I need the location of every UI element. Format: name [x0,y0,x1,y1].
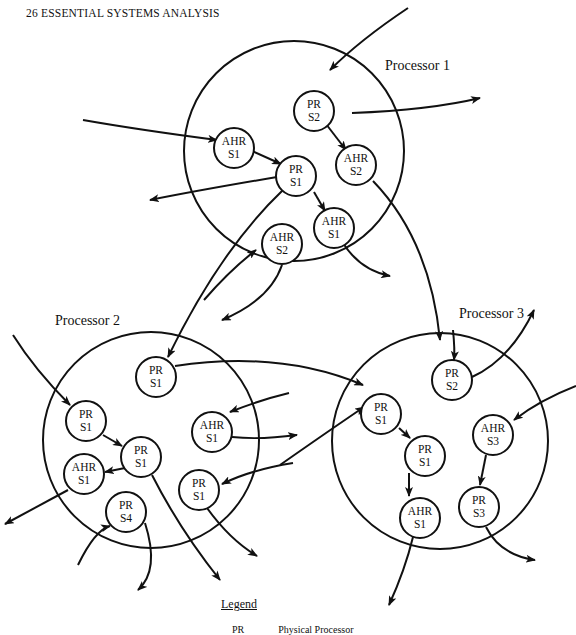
svg-text:AHR: AHR [222,135,247,147]
svg-text:PR: PR [445,367,459,379]
svg-text:PR: PR [307,98,321,110]
node-p2-pr-s1d: PRS1 [192,477,206,502]
svg-text:AHR: AHR [344,152,369,164]
svg-text:S1: S1 [78,474,90,486]
svg-text:PR: PR [79,408,93,420]
svg-text:S1: S1 [228,148,240,160]
svg-text:S1: S1 [419,456,431,468]
svg-text:AHR: AHR [270,231,295,243]
svg-text:AHR: AHR [408,505,433,517]
legend-meaning: Physical Processor [278,624,353,635]
node-p2-pr-s4: PRS4 [119,499,133,524]
node-p3-pr-s3: PRS3 [472,494,486,519]
svg-text:S2: S2 [446,380,458,392]
svg-text:PR: PR [289,163,303,175]
svg-text:AHR: AHR [200,419,225,431]
svg-text:AHR: AHR [481,422,506,434]
svg-text:S3: S3 [487,435,499,447]
svg-text:PR: PR [472,494,486,506]
legend-abbr: PR [232,624,244,635]
node-p1-pr-s1: PRS1 [289,163,303,188]
svg-text:S1: S1 [414,518,426,530]
node-p1-pr-s2: PRS2 [307,98,321,123]
node-p3-pr-s2: PRS2 [445,367,459,392]
svg-text:S2: S2 [350,165,362,177]
svg-text:PR: PR [149,364,163,376]
svg-text:S1: S1 [206,432,218,444]
svg-text:S1: S1 [135,457,147,469]
svg-text:PR: PR [119,499,133,511]
node-p2-pr-s1c: PRS1 [134,444,148,469]
svg-text:S1: S1 [328,228,340,240]
svg-text:S4: S4 [120,512,132,524]
svg-text:AHR: AHR [72,461,97,473]
svg-text:AHR: AHR [322,215,347,227]
svg-text:S1: S1 [80,421,92,433]
node-p3-pr-s1a: PRS1 [374,401,388,426]
svg-text:S1: S1 [290,176,302,188]
legend-entry: PRPhysical Processor [232,624,388,635]
svg-text:S3: S3 [473,507,485,519]
node-p3-pr-s1b: PRS1 [418,443,432,468]
node-p2-pr-s1b: PRS1 [79,408,93,433]
svg-text:PR: PR [134,444,148,456]
svg-text:S1: S1 [150,377,162,389]
svg-text:S2: S2 [276,244,288,256]
svg-text:PR: PR [192,477,206,489]
svg-text:S2: S2 [308,111,320,123]
svg-text:S1: S1 [375,414,387,426]
svg-text:PR: PR [374,401,388,413]
svg-text:PR: PR [418,443,432,455]
legend-title: Legend [221,597,257,612]
svg-text:S1: S1 [193,490,205,502]
node-p2-pr-s1a: PRS1 [149,364,163,389]
